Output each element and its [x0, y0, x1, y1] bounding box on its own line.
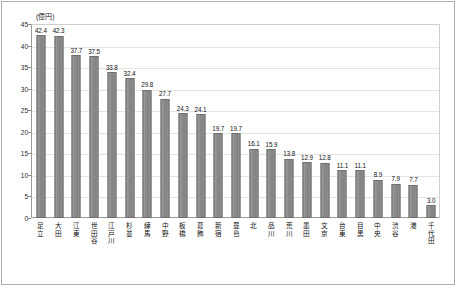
bar[interactable]	[285, 159, 294, 218]
x-axis-tick-label-char: 板	[177, 222, 189, 230]
x-axis-tick-label: 目黒	[354, 222, 366, 237]
y-axis-tick-label: 35	[6, 64, 28, 71]
x-axis-tick-label: 大田	[53, 222, 65, 237]
bar-value-label: 24.1	[195, 106, 207, 113]
bar[interactable]	[409, 185, 418, 218]
bar[interactable]	[338, 170, 347, 218]
bar-value-label: 3.0	[427, 197, 435, 204]
bar[interactable]	[107, 72, 116, 218]
x-axis-tick-label-char: 台	[336, 222, 348, 230]
bar[interactable]	[143, 90, 152, 218]
bar-value-label: 27.7	[159, 90, 171, 97]
bar[interactable]	[125, 78, 134, 218]
bar-value-label: 37.5	[88, 48, 100, 55]
x-axis-tick-label: 港	[407, 222, 419, 230]
bar-slot: 15.9	[263, 24, 281, 218]
bar-slot: 32.4	[121, 24, 139, 218]
bar[interactable]	[391, 184, 400, 218]
bar-slot: 37.5	[85, 24, 103, 218]
x-axis-tick-label-char: 戸	[106, 230, 118, 238]
bar-slot: 8.9	[369, 24, 387, 218]
y-axis-tick-label: 15	[6, 150, 28, 157]
bar[interactable]	[90, 56, 99, 218]
x-axis-tick-label: 葛飾	[195, 222, 207, 237]
bar-slot: 27.7	[156, 24, 174, 218]
x-axis-tick-label: 中央	[372, 222, 384, 237]
bar-value-label: 13.8	[283, 150, 295, 157]
bar-value-label: 7.9	[391, 175, 399, 182]
x-axis-tick-label-char: 田	[53, 230, 65, 238]
x-axis-tick-label-char: 黒	[354, 230, 366, 238]
bar-slot: 7.9	[387, 24, 405, 218]
x-axis-tick-label: 品川	[265, 222, 277, 237]
bar[interactable]	[249, 149, 258, 218]
bar[interactable]	[302, 162, 311, 218]
bar[interactable]	[36, 35, 45, 218]
y-axis-unit-caption: (億円)	[36, 11, 55, 21]
x-axis-tick-label: 江東	[70, 222, 82, 237]
bar[interactable]	[196, 114, 205, 218]
x-axis-tick-label: 杉並	[124, 222, 136, 237]
bar-slot: 24.3	[174, 24, 192, 218]
bar-value-label: 33.8	[106, 64, 118, 71]
y-axis-tick-label: 30	[6, 85, 28, 92]
x-axis-tick-label-char: 千	[425, 222, 437, 230]
x-axis-tick-label: 練馬	[141, 222, 153, 237]
x-axis-tick-label-char: 田	[425, 237, 437, 245]
bar-slot: 12.9	[298, 24, 316, 218]
x-axis-tick-label-char: 江	[106, 222, 118, 230]
x-axis-tick-label-char: 中	[372, 222, 384, 230]
x-axis-tick-label: 荒川	[283, 222, 295, 237]
bar[interactable]	[214, 133, 223, 218]
x-axis-tick-label-char: 練	[141, 222, 153, 230]
x-axis-tick-label-char: 港	[407, 222, 419, 230]
bar-value-label: 19.7	[212, 125, 224, 132]
bar[interactable]	[320, 163, 329, 218]
bar[interactable]	[373, 180, 382, 218]
x-axis-tick-label-char: 野	[159, 230, 171, 238]
bar[interactable]	[161, 99, 170, 218]
x-axis-tick-label-char: 葛	[195, 222, 207, 230]
bar-value-label: 37.7	[70, 47, 82, 54]
chart-screenshot: (億円) 051015202530354045 42.442.337.737.5…	[0, 0, 457, 287]
bar[interactable]	[356, 170, 365, 218]
x-axis-tick-label-char: 田	[301, 230, 313, 238]
bar-slot: 7.7	[405, 24, 423, 218]
bar[interactable]	[267, 149, 276, 218]
x-axis-tick-label-char: 立	[35, 230, 47, 238]
bar[interactable]	[72, 55, 81, 218]
x-axis-tick-label-char: 宿	[212, 230, 224, 238]
y-axis-tick-label: 5	[6, 193, 28, 200]
x-axis-tick-label: 墨田	[301, 222, 313, 237]
x-axis-tick-label: 文京	[319, 222, 331, 237]
bar[interactable]	[178, 113, 187, 218]
bar[interactable]	[54, 36, 63, 218]
bar-slot: 16.1	[245, 24, 263, 218]
x-axis-tick-label-char: 渋	[390, 222, 402, 230]
y-axis-tick-mark	[28, 218, 31, 219]
bar-value-label: 24.3	[177, 105, 189, 112]
x-axis-tick-label: 北	[248, 222, 260, 230]
bar-value-label: 32.4	[124, 70, 136, 77]
x-axis-tick-label-char: 荒	[283, 222, 295, 230]
bar[interactable]	[231, 133, 240, 218]
y-axis-tick-label: 45	[6, 21, 28, 28]
x-axis-tick-label-char: 北	[248, 222, 260, 230]
bar-value-label: 29.8	[141, 81, 153, 88]
x-axis-tick-label-char: 豊	[230, 222, 242, 230]
x-axis-tick-label-char: 川	[106, 237, 118, 245]
bar-value-label: 12.8	[319, 154, 331, 161]
bar[interactable]	[427, 205, 436, 218]
x-axis-tick-label: 千代田	[425, 222, 437, 245]
x-axis-tick-label-char: 文	[319, 222, 331, 230]
x-axis-tick-labels: 足立大田江東世田谷江戸川杉並練馬中野板橋葛飾新宿豊島北品川荒川墨田文京台東目黒中…	[32, 222, 440, 284]
x-axis-tick-label: 豊島	[230, 222, 242, 237]
bar-slot: 42.4	[32, 24, 50, 218]
x-axis-tick-label-char: 島	[230, 230, 242, 238]
bar-value-label: 8.9	[374, 171, 382, 178]
x-axis-tick-label-char: 並	[124, 230, 136, 238]
x-axis-tick-label-char: 谷	[88, 237, 100, 245]
x-axis-tick-label-char: 央	[372, 230, 384, 238]
x-axis-tick-label-char: 江	[70, 222, 82, 230]
y-axis-tick-label: 40	[6, 42, 28, 49]
